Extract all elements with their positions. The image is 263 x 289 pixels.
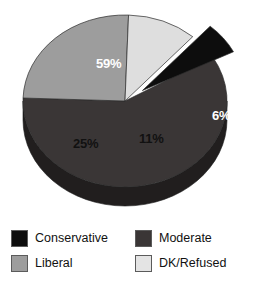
legend-swatch-liberal — [11, 255, 28, 272]
legend-label-moderate: Moderate — [159, 232, 212, 245]
pie-plot-area: 59% 25% 11% 6% — [0, 0, 263, 222]
legend-swatch-moderate — [135, 230, 152, 247]
legend-label-liberal: Liberal — [35, 257, 73, 270]
chart-legend: Conservative Moderate Liberal DK/Refused — [0, 228, 263, 280]
cut-off-caption-row — [0, 283, 263, 289]
legend-item-conservative[interactable]: Conservative — [11, 228, 131, 249]
legend-swatch-conservative — [11, 230, 28, 247]
pie-slices-group — [23, 15, 233, 206]
legend-item-moderate[interactable]: Moderate — [135, 228, 263, 249]
legend-item-liberal[interactable]: Liberal — [11, 253, 131, 274]
legend-label-dk-refused: DK/Refused — [159, 257, 226, 270]
legend-swatch-dk-refused — [135, 255, 152, 272]
pie-svg — [0, 0, 263, 222]
legend-label-conservative: Conservative — [35, 232, 108, 245]
legend-item-dk-refused[interactable]: DK/Refused — [135, 253, 263, 274]
pie-chart-figure: 59% 25% 11% 6% Conservative Moderate Lib… — [0, 0, 263, 289]
